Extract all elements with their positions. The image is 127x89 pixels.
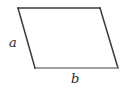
side-label-a: a	[9, 36, 17, 49]
side-label-b: b	[71, 72, 79, 85]
figure-canvas: a b	[0, 0, 127, 89]
parallelogram-right-edge	[100, 8, 118, 68]
parallelogram-figure	[0, 0, 127, 89]
parallelogram-left-edge	[18, 8, 35, 68]
